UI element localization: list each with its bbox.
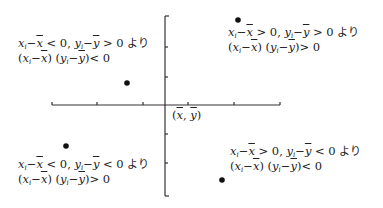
zero: 0 bbox=[328, 144, 335, 158]
paren: ) bbox=[259, 159, 264, 173]
minus: − bbox=[69, 51, 79, 65]
sign: > bbox=[103, 36, 113, 50]
quadrant-4-annotation: xi−x > 0, yi−y < 0 より (xi−x) (yi−y)< 0 bbox=[230, 145, 361, 175]
result-line: (xi−x) (yi−y)< 0 bbox=[230, 160, 361, 175]
condition-line: xi−x > 0, yi−y < 0 より bbox=[230, 145, 361, 160]
sign: > bbox=[257, 25, 267, 39]
condition-line: xi−x < 0, yi−y < 0 より bbox=[18, 158, 149, 173]
minus: − bbox=[27, 36, 37, 50]
y-bar: y bbox=[303, 25, 310, 39]
sign: < bbox=[315, 144, 325, 158]
sign: > bbox=[299, 40, 309, 54]
condition-line: xi−x < 0, yi−y > 0 より bbox=[18, 37, 149, 52]
x-bar: x bbox=[246, 25, 253, 39]
sign: > bbox=[313, 25, 323, 39]
minus: − bbox=[237, 25, 247, 39]
minus: − bbox=[281, 159, 291, 173]
data-point-q4 bbox=[219, 177, 225, 183]
zero: 0 bbox=[103, 172, 110, 186]
x-bar: x bbox=[36, 157, 43, 171]
minus: − bbox=[295, 144, 305, 158]
minus: − bbox=[241, 40, 251, 54]
minus: − bbox=[31, 51, 41, 65]
minus: − bbox=[239, 144, 249, 158]
x-axis bbox=[52, 102, 280, 105]
paren: ) bbox=[47, 51, 52, 65]
minus: − bbox=[279, 40, 289, 54]
zero: 0 bbox=[116, 157, 123, 171]
data-point-q2 bbox=[124, 80, 130, 86]
minus: − bbox=[83, 36, 93, 50]
data-point-q1 bbox=[235, 17, 241, 23]
zero: 0 bbox=[116, 36, 123, 50]
x-bar: x bbox=[248, 144, 255, 158]
sign: < bbox=[103, 157, 113, 171]
y-bar: y bbox=[93, 36, 100, 50]
origin-label: (x, y) bbox=[172, 108, 201, 122]
quadrant-3-annotation: xi−x < 0, yi−y < 0 より (xi−x) (yi−y)> 0 bbox=[18, 158, 149, 188]
x-bar: x bbox=[36, 36, 43, 50]
zero: 0 bbox=[315, 159, 322, 173]
quadrant-2-annotation: xi−x < 0, yi−y > 0 より (xi−x) (yi−y)< 0 bbox=[18, 37, 149, 67]
minus: − bbox=[243, 159, 253, 173]
y-axis bbox=[165, 16, 169, 196]
minus: − bbox=[27, 157, 37, 171]
minus: − bbox=[293, 25, 303, 39]
paren: ) bbox=[197, 108, 202, 122]
yori-text: より bbox=[337, 26, 359, 39]
sign: < bbox=[47, 36, 57, 50]
paren: ) bbox=[47, 172, 52, 186]
sign: > bbox=[89, 172, 99, 186]
zero: 0 bbox=[313, 40, 320, 54]
result-line: (xi−x) (yi−y)> 0 bbox=[18, 173, 149, 188]
yori-text: より bbox=[339, 145, 361, 158]
data-point-q3 bbox=[63, 143, 69, 149]
yori-text: より bbox=[127, 158, 149, 171]
y-bar: y bbox=[93, 157, 100, 171]
minus: − bbox=[31, 172, 41, 186]
zero: 0 bbox=[103, 51, 110, 65]
condition-line: xi−x > 0, yi−y > 0 より bbox=[228, 26, 359, 41]
quadrant-1-annotation: xi−x > 0, yi−y > 0 より (xi−x) (yi−y)> 0 bbox=[228, 26, 359, 56]
result-line: (xi−x) (yi−y)< 0 bbox=[18, 52, 149, 67]
paren: ) bbox=[257, 40, 262, 54]
sign: < bbox=[301, 159, 311, 173]
y-bar: y bbox=[305, 144, 312, 158]
result-line: (xi−x) (yi−y)> 0 bbox=[228, 41, 359, 56]
sign: < bbox=[47, 157, 57, 171]
minus: − bbox=[69, 172, 79, 186]
zero: 0 bbox=[326, 25, 333, 39]
sign: > bbox=[259, 144, 269, 158]
sign: < bbox=[89, 51, 99, 65]
minus: − bbox=[83, 157, 93, 171]
yori-text: より bbox=[127, 37, 149, 50]
